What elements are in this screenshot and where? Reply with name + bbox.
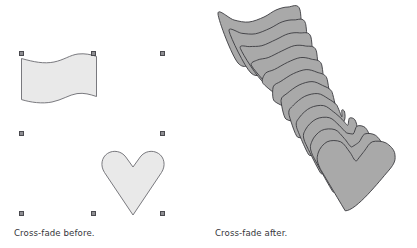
before-artboard[interactable] [0,0,209,220]
blend-stack[interactable] [218,6,395,211]
wave-shape[interactable] [22,54,97,103]
selection-handle[interactable] [160,51,165,56]
selection-handle[interactable] [19,131,24,136]
after-artboard[interactable] [208,0,417,220]
selection-handle[interactable] [160,211,165,216]
heart-shape[interactable] [102,151,164,215]
cross-fade-figure: Cross-fade before. Cross-fade after. [0,0,417,248]
selection-handle[interactable] [19,51,24,56]
panel-cross-fade-before: Cross-fade before. [0,0,209,248]
caption-after: Cross-fade after. [215,228,287,239]
selection-handle[interactable] [91,51,96,56]
selection-handle[interactable] [160,131,165,136]
panel-cross-fade-after: Cross-fade after. [208,0,417,248]
selection-handle[interactable] [91,211,96,216]
selection-handle[interactable] [19,211,24,216]
caption-before: Cross-fade before. [14,228,95,239]
